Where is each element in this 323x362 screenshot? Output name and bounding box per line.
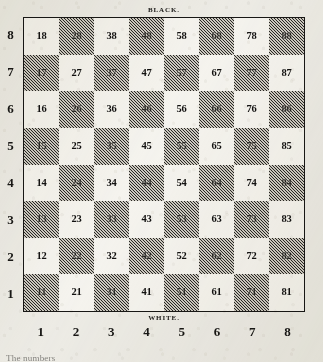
- square-number-label: 15: [36, 141, 46, 152]
- square-number-label: 76: [246, 104, 256, 115]
- square-number-label: 63: [211, 214, 221, 225]
- board-square-81[interactable]: 81: [269, 274, 304, 311]
- board-square-84[interactable]: 84: [269, 165, 304, 202]
- board-square-76[interactable]: 76: [234, 91, 269, 128]
- board-square-67[interactable]: 67: [199, 55, 234, 92]
- board-square-52[interactable]: 52: [164, 238, 199, 275]
- board-square-38[interactable]: 38: [94, 18, 129, 55]
- board-square-77[interactable]: 77: [234, 55, 269, 92]
- file-label-8: 8: [270, 324, 305, 346]
- board-square-11[interactable]: 11: [24, 274, 59, 311]
- board-square-85[interactable]: 85: [269, 128, 304, 165]
- board-square-72[interactable]: 72: [234, 238, 269, 275]
- board-square-82[interactable]: 82: [269, 238, 304, 275]
- board-square-83[interactable]: 83: [269, 201, 304, 238]
- square-number-label: 46: [141, 104, 151, 115]
- board-square-53[interactable]: 53: [164, 201, 199, 238]
- board-square-43[interactable]: 43: [129, 201, 164, 238]
- square-number-label: 64: [211, 178, 221, 189]
- square-number-label: 37: [106, 68, 116, 79]
- square-number-label: 86: [281, 104, 291, 115]
- board-square-62[interactable]: 62: [199, 238, 234, 275]
- square-number-label: 83: [281, 214, 291, 225]
- board-square-25[interactable]: 25: [59, 128, 94, 165]
- file-label-1: 1: [23, 324, 58, 346]
- board-square-64[interactable]: 64: [199, 165, 234, 202]
- square-number-label: 35: [106, 141, 116, 152]
- rank-label-5: 5: [0, 128, 21, 165]
- rank-label-4: 4: [0, 165, 21, 202]
- square-number-label: 38: [106, 31, 116, 42]
- board-square-31[interactable]: 31: [94, 274, 129, 311]
- square-number-label: 73: [246, 214, 256, 225]
- board-square-17[interactable]: 17: [24, 55, 59, 92]
- board-square-32[interactable]: 32: [94, 238, 129, 275]
- board-square-14[interactable]: 14: [24, 165, 59, 202]
- board-square-44[interactable]: 44: [129, 165, 164, 202]
- board-square-71[interactable]: 71: [234, 274, 269, 311]
- board-square-23[interactable]: 23: [59, 201, 94, 238]
- board-square-26[interactable]: 26: [59, 91, 94, 128]
- board-square-22[interactable]: 22: [59, 238, 94, 275]
- board-square-57[interactable]: 57: [164, 55, 199, 92]
- square-number-label: 43: [141, 214, 151, 225]
- board-square-15[interactable]: 15: [24, 128, 59, 165]
- board-square-46[interactable]: 46: [129, 91, 164, 128]
- square-number-label: 23: [71, 214, 81, 225]
- board-square-18[interactable]: 18: [24, 18, 59, 55]
- board-square-28[interactable]: 28: [59, 18, 94, 55]
- board-square-75[interactable]: 75: [234, 128, 269, 165]
- board-square-61[interactable]: 61: [199, 274, 234, 311]
- board-square-45[interactable]: 45: [129, 128, 164, 165]
- board-square-88[interactable]: 88: [269, 18, 304, 55]
- square-number-label: 84: [281, 178, 291, 189]
- board-square-63[interactable]: 63: [199, 201, 234, 238]
- rank-label-3: 3: [0, 201, 21, 238]
- square-number-label: 62: [211, 251, 221, 262]
- square-number-label: 12: [36, 251, 46, 262]
- file-label-5: 5: [164, 324, 199, 346]
- board-square-78[interactable]: 78: [234, 18, 269, 55]
- square-number-label: 24: [71, 178, 81, 189]
- board-square-58[interactable]: 58: [164, 18, 199, 55]
- board-square-66[interactable]: 66: [199, 91, 234, 128]
- square-number-label: 21: [71, 287, 81, 298]
- file-axis-labels: 12345678: [23, 324, 305, 346]
- board-square-56[interactable]: 56: [164, 91, 199, 128]
- board-square-54[interactable]: 54: [164, 165, 199, 202]
- board-square-41[interactable]: 41: [129, 274, 164, 311]
- board-square-35[interactable]: 35: [94, 128, 129, 165]
- chessboard: 1828384858687888172737475767778716263646…: [23, 17, 305, 312]
- board-square-42[interactable]: 42: [129, 238, 164, 275]
- square-number-label: 44: [141, 178, 151, 189]
- square-number-label: 27: [71, 68, 81, 79]
- board-square-86[interactable]: 86: [269, 91, 304, 128]
- board-square-65[interactable]: 65: [199, 128, 234, 165]
- board-square-51[interactable]: 51: [164, 274, 199, 311]
- board-square-13[interactable]: 13: [24, 201, 59, 238]
- board-square-27[interactable]: 27: [59, 55, 94, 92]
- square-number-label: 68: [211, 31, 221, 42]
- square-number-label: 14: [36, 178, 46, 189]
- board-square-68[interactable]: 68: [199, 18, 234, 55]
- board-square-33[interactable]: 33: [94, 201, 129, 238]
- square-number-label: 13: [36, 214, 46, 225]
- board-square-55[interactable]: 55: [164, 128, 199, 165]
- board-square-24[interactable]: 24: [59, 165, 94, 202]
- board-square-73[interactable]: 73: [234, 201, 269, 238]
- square-number-label: 28: [71, 31, 81, 42]
- board-square-37[interactable]: 37: [94, 55, 129, 92]
- square-number-label: 56: [176, 104, 186, 115]
- board-square-87[interactable]: 87: [269, 55, 304, 92]
- board-square-36[interactable]: 36: [94, 91, 129, 128]
- file-label-4: 4: [129, 324, 164, 346]
- square-number-label: 65: [211, 141, 221, 152]
- rank-label-6: 6: [0, 91, 21, 128]
- board-square-47[interactable]: 47: [129, 55, 164, 92]
- board-square-74[interactable]: 74: [234, 165, 269, 202]
- board-square-21[interactable]: 21: [59, 274, 94, 311]
- board-square-48[interactable]: 48: [129, 18, 164, 55]
- board-square-16[interactable]: 16: [24, 91, 59, 128]
- board-square-12[interactable]: 12: [24, 238, 59, 275]
- board-square-34[interactable]: 34: [94, 165, 129, 202]
